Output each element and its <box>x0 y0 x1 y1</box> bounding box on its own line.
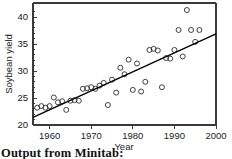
scatter-point <box>189 27 194 32</box>
x-tick-label: 2000 <box>205 130 226 141</box>
y-axis-ticks: 2025303540 <box>17 11 37 130</box>
scatter-point <box>139 89 144 94</box>
scatter-point <box>143 79 148 84</box>
scatter-point <box>105 103 110 108</box>
x-tick-label: 1970 <box>81 130 102 141</box>
soybean-yield-scatter-chart: 2025303540 19601970198019902000 Year Soy… <box>0 0 232 159</box>
y-tick-label: 40 <box>17 11 28 22</box>
scatter-points-group <box>35 8 202 113</box>
plot-frame <box>33 3 216 125</box>
scatter-point <box>114 90 119 95</box>
scatter-point <box>134 61 139 66</box>
figure-caption: Output from Minitab: <box>1 146 231 159</box>
x-tick-label: 1990 <box>164 130 185 141</box>
regression-fit-line <box>33 34 216 118</box>
scatter-point <box>176 27 181 32</box>
y-tick-label: 30 <box>17 65 28 76</box>
y-axis-minor-ticks <box>33 12 35 120</box>
x-tick-label: 1980 <box>122 130 143 141</box>
y-axis-title: Soybean yield <box>3 34 14 94</box>
scatter-point <box>130 87 135 92</box>
scatter-point <box>51 95 56 100</box>
scatter-point <box>180 54 185 59</box>
scatter-point <box>126 57 131 62</box>
y-tick-label: 35 <box>17 38 28 49</box>
minitab-figure: 2025303540 19601970198019902000 Year Soy… <box>0 0 232 159</box>
y-tick-label: 25 <box>17 92 28 103</box>
scatter-point <box>184 8 189 13</box>
scatter-point <box>118 65 123 70</box>
x-axis-ticks: 19601970198019902000 <box>39 125 227 141</box>
scatter-point <box>197 27 202 32</box>
scatter-point <box>64 107 69 112</box>
y-tick-label: 20 <box>17 119 28 130</box>
scatter-point <box>159 85 164 90</box>
x-tick-label: 1960 <box>39 130 60 141</box>
